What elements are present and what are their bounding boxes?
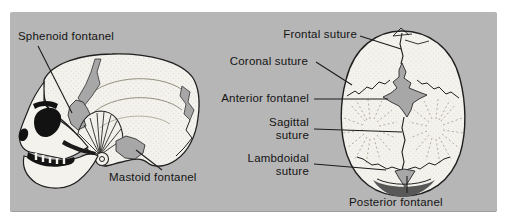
label-frontal-suture: Frontal suture [283,28,357,41]
label-sagittal-suture: Sagittal suture [239,116,309,142]
label-anterior-fontanel: Anterior fontanel [221,92,309,105]
leader-coronal [316,62,352,85]
ear-canal [96,153,109,166]
lateral-skull-illustration [19,54,199,188]
label-lambdoidal-suture: Lambdoidal suture [229,152,309,178]
label-coronal-suture: Coronal suture [230,55,308,68]
label-posterior-fontanel: Posterior fontanel [349,196,443,209]
figure-infant-skull-fontanels: Sphenoid fontanel Mastoid fontanel Front… [0,0,505,224]
label-sphenoid-fontanel: Sphenoid fontanel [18,30,114,43]
superior-skull-illustration [341,28,465,197]
label-mastoid-fontanel: Mastoid fontanel [109,171,197,184]
